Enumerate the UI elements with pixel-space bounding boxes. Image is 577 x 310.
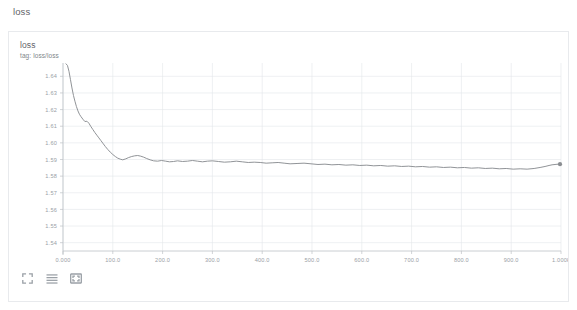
chart-toolbar bbox=[20, 271, 83, 286]
svg-text:100.0: 100.0 bbox=[105, 257, 120, 263]
svg-text:1.58: 1.58 bbox=[45, 173, 57, 179]
svg-text:1.000k: 1.000k bbox=[552, 257, 568, 263]
svg-text:1.64: 1.64 bbox=[45, 73, 57, 79]
svg-text:1.54: 1.54 bbox=[45, 240, 57, 246]
svg-text:300.0: 300.0 bbox=[205, 257, 220, 263]
series-endpoint-marker bbox=[558, 162, 562, 166]
svg-text:0.000: 0.000 bbox=[56, 257, 71, 263]
y-axis-tick-labels: 1.641.631.621.611.601.591.581.571.561.55… bbox=[45, 73, 63, 245]
svg-text:800.0: 800.0 bbox=[454, 257, 469, 263]
svg-text:400.0: 400.0 bbox=[255, 257, 270, 263]
svg-text:1.60: 1.60 bbox=[45, 140, 57, 146]
page-section-label: loss bbox=[13, 5, 30, 19]
svg-text:1.55: 1.55 bbox=[45, 223, 57, 229]
fit-domain-icon[interactable] bbox=[68, 271, 83, 286]
svg-text:1.59: 1.59 bbox=[45, 157, 57, 163]
vertical-gridlines bbox=[63, 63, 561, 251]
fullscreen-icon[interactable] bbox=[20, 271, 35, 286]
svg-text:600.0: 600.0 bbox=[354, 257, 369, 263]
data-table-icon[interactable] bbox=[44, 271, 59, 286]
scalar-chart-card: loss tag: loss/loss 1.641.631.621.611.60… bbox=[8, 31, 569, 302]
svg-text:900.0: 900.0 bbox=[504, 257, 519, 263]
loss-series-line bbox=[66, 64, 560, 169]
line-chart-svg[interactable]: 1.641.631.621.611.601.591.581.571.561.55… bbox=[9, 58, 568, 263]
card-title: loss bbox=[20, 40, 59, 51]
svg-text:1.61: 1.61 bbox=[45, 123, 57, 129]
chart-plot-area[interactable]: 1.641.631.621.611.601.591.581.571.561.55… bbox=[9, 58, 568, 263]
svg-text:1.57: 1.57 bbox=[45, 190, 57, 196]
svg-text:1.63: 1.63 bbox=[45, 90, 57, 96]
x-axis-tick-labels: 0.000100.0200.0300.0400.0500.0600.0700.0… bbox=[56, 251, 569, 263]
svg-text:200.0: 200.0 bbox=[155, 257, 170, 263]
svg-text:1.62: 1.62 bbox=[45, 107, 57, 113]
svg-text:1.56: 1.56 bbox=[45, 207, 57, 213]
svg-text:700.0: 700.0 bbox=[404, 257, 419, 263]
svg-text:500.0: 500.0 bbox=[305, 257, 320, 263]
